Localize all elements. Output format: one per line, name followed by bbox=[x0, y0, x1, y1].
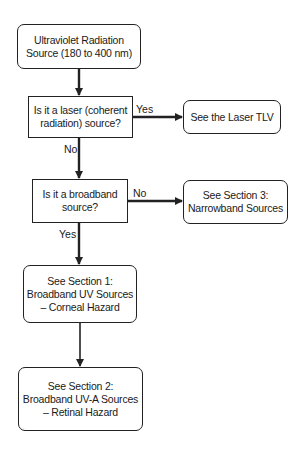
node-section-1: See Section 1: Broadband UV Sources – Co… bbox=[23, 265, 137, 323]
node-line: Is it a broadband bbox=[43, 188, 118, 201]
node-line: source? bbox=[62, 201, 98, 214]
node-uv-source: Ultraviolet Radiation Source (180 to 400… bbox=[17, 24, 141, 69]
node-section-2: See Section 2: Broadband UV-A Sources – … bbox=[18, 367, 143, 431]
node-line: Source (180 to 400 nm) bbox=[26, 47, 132, 60]
node-line: See Section 2: bbox=[48, 380, 114, 393]
node-section-3: See Section 3: Narrowband Sources bbox=[183, 180, 288, 224]
node-line: Is it a laser (coherent bbox=[34, 104, 127, 117]
edge-label-broadband-no: No bbox=[133, 187, 146, 199]
node-line: Narrowband Sources bbox=[188, 202, 283, 215]
node-line: See Section 1: bbox=[47, 275, 113, 288]
node-line: Broadband UV-A Sources bbox=[23, 393, 138, 406]
node-line: – Retinal Hazard bbox=[43, 406, 118, 419]
node-line: – Corneal Hazard bbox=[40, 301, 119, 314]
node-line: radiation) source? bbox=[40, 117, 120, 130]
node-laser-question: Is it a laser (coherent radiation) sourc… bbox=[28, 96, 133, 138]
node-line: Broadband UV Sources bbox=[27, 288, 133, 301]
node-broadband-question: Is it a broadband source? bbox=[32, 179, 128, 223]
edge-label-laser-no: No bbox=[64, 143, 77, 155]
node-line: Ultraviolet Radiation bbox=[34, 34, 124, 47]
node-line: See Section 3: bbox=[203, 189, 269, 202]
edge-label-laser-yes: Yes bbox=[136, 103, 153, 115]
node-line: See the Laser TLV bbox=[190, 111, 273, 124]
node-laser-tlv: See the Laser TLV bbox=[183, 100, 281, 134]
edge-label-broadband-yes: Yes bbox=[59, 228, 76, 240]
